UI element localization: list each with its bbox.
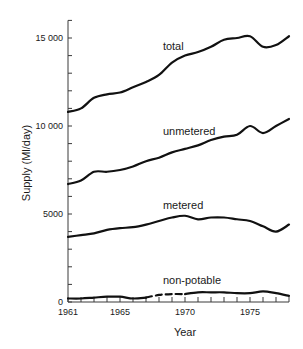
x-tick-label: 1961: [58, 307, 78, 317]
series-line-non-potable: [185, 291, 289, 295]
line-chart: 0500010 00015 0001961196519701975 totalu…: [0, 0, 303, 349]
y-tick-label: 10 000: [35, 121, 63, 131]
series-line-non-potable: [146, 294, 185, 298]
axes: 0500010 00015 0001961196519701975: [35, 20, 289, 317]
x-tick-label: 1965: [110, 307, 130, 317]
series-label-metered: metered: [163, 199, 203, 211]
series-label-non-potable: non-potable: [163, 274, 221, 286]
x-tick-label: 1975: [240, 307, 260, 317]
series-lines: [68, 36, 289, 299]
y-tick-label: 5000: [43, 209, 63, 219]
y-axis-title: Supply (Ml/day): [20, 125, 32, 201]
series-labels: totalunmeteredmeterednon-potable: [163, 40, 221, 286]
y-tick-label: 0: [58, 297, 63, 307]
series-line-metered: [68, 216, 289, 237]
series-label-unmetered: unmetered: [163, 125, 216, 137]
x-tick-label: 1970: [175, 307, 195, 317]
y-tick-label: 15 000: [35, 33, 63, 43]
x-axis-title: Year: [174, 326, 197, 338]
series-label-total: total: [163, 40, 184, 52]
